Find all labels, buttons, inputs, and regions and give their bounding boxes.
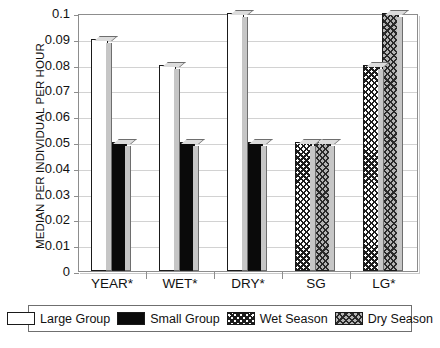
legend: Large GroupSmall GroupWet SeasonDry Seas… — [28, 305, 412, 332]
legend-label: Dry Season — [368, 312, 433, 326]
bar-sg-dry-season — [314, 142, 331, 271]
bar-side-face — [378, 69, 384, 271]
bar-side-face — [193, 146, 199, 271]
plot-area — [78, 14, 418, 272]
bar-year-large-group — [91, 39, 108, 271]
y-axis-tick — [74, 144, 79, 145]
bar-side-face — [242, 17, 248, 271]
bar-lg-dry-season — [382, 13, 399, 271]
y-axis-tick — [74, 118, 79, 119]
legend-item: Wet Season — [227, 312, 328, 326]
bar-top-face — [230, 10, 254, 15]
legend-swatch — [7, 312, 35, 325]
y-axis-tick — [74, 92, 79, 93]
legend-item: Large Group — [7, 312, 110, 326]
x-axis-tick-label: LG* — [339, 276, 429, 291]
y-axis-tick-label: 0.04 — [10, 164, 70, 174]
bar-side-face — [125, 146, 131, 271]
y-axis-tick — [74, 41, 79, 42]
y-axis-tick — [74, 15, 79, 16]
bar-wet-large-group — [159, 65, 176, 271]
legend-item: Small Group — [117, 312, 219, 326]
y-axis-tick-label: 0.1 — [10, 9, 70, 19]
y-axis-tick-label: 0.01 — [10, 241, 70, 251]
y-axis-tick-label: 0.07 — [10, 86, 70, 96]
legend-label: Wet Season — [260, 312, 328, 326]
legend-label: Large Group — [40, 312, 110, 326]
y-axis-tick — [74, 196, 79, 197]
y-axis-tick-label: 0.02 — [10, 215, 70, 225]
gridline — [79, 41, 417, 42]
y-axis-tick — [74, 273, 79, 274]
y-axis-tick — [74, 67, 79, 68]
y-axis-tick-label: 0.05 — [10, 138, 70, 148]
bar-year-small-group — [110, 142, 127, 271]
bar-wet-small-group — [178, 142, 195, 271]
legend-swatch — [335, 312, 363, 325]
y-axis-tick — [74, 170, 79, 171]
bar-sg-wet-season — [295, 142, 312, 271]
legend-item: Dry Season — [335, 312, 433, 326]
bar-side-face — [397, 17, 403, 271]
bar-side-face — [329, 146, 335, 271]
legend-swatch — [227, 312, 255, 325]
y-axis-tick — [74, 247, 79, 248]
legend-label: Small Group — [150, 312, 219, 326]
bar-side-face — [174, 69, 180, 271]
bar-dry-large-group — [227, 13, 244, 271]
y-axis-tick-label: 0.06 — [10, 112, 70, 122]
bar-side-face — [261, 146, 267, 271]
y-axis-tick-label: 0.08 — [10, 61, 70, 71]
bar-side-face — [106, 43, 112, 271]
bar-chart: MEDIAN PER INDIVIDUAL PER HOUR 0.10.090.… — [0, 0, 440, 348]
bar-top-face — [385, 10, 409, 15]
bar-dry-small-group — [246, 142, 263, 271]
y-axis-tick-label: 0 — [10, 267, 70, 277]
y-axis-tick-label: 0.09 — [10, 35, 70, 45]
legend-swatch — [117, 312, 145, 325]
y-axis-tick-label: 0.03 — [10, 190, 70, 200]
bar-side-face — [310, 146, 316, 271]
bar-lg-wet-season — [363, 65, 380, 271]
y-axis-tick — [74, 221, 79, 222]
